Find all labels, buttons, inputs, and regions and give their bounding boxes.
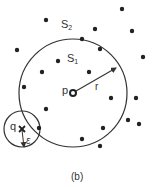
data-point xyxy=(44,107,48,111)
data-point xyxy=(87,70,91,74)
epsilon-arrow-icon xyxy=(22,130,24,147)
label-s1: S1 xyxy=(67,52,78,65)
data-point xyxy=(40,70,44,74)
data-point xyxy=(141,55,145,59)
center-point-p-icon xyxy=(70,90,76,96)
data-point xyxy=(130,29,134,33)
data-point xyxy=(126,118,130,122)
label-s2: S2 xyxy=(61,18,72,31)
label-r: r xyxy=(95,81,99,92)
data-point xyxy=(37,126,41,130)
label-q: q xyxy=(10,120,16,132)
data-point xyxy=(120,7,124,11)
data-point xyxy=(80,37,84,41)
neighborhood-diagram: S2 S1 p r q ε (b) xyxy=(0,0,156,187)
data-point xyxy=(22,85,26,89)
data-point xyxy=(15,48,19,52)
data-points xyxy=(15,7,145,148)
data-point xyxy=(93,27,97,31)
data-point xyxy=(44,18,48,22)
label-epsilon: ε xyxy=(26,135,31,146)
data-point xyxy=(134,96,138,100)
data-point xyxy=(56,59,60,63)
data-point xyxy=(98,144,102,148)
data-point xyxy=(80,137,84,141)
data-point xyxy=(109,96,113,100)
data-point xyxy=(101,126,105,130)
data-point xyxy=(98,47,102,51)
data-point xyxy=(137,122,141,126)
label-p: p xyxy=(62,84,68,96)
figure-caption: (b) xyxy=(71,171,83,182)
